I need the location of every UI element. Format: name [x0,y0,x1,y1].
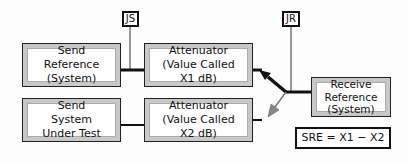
box-line: Attenuator [169,44,228,58]
box-line: (System) [327,103,374,116]
js-label-text: JS [126,13,135,24]
box-line: Under Test [42,127,100,141]
box-line: Attenuator [169,99,228,113]
box-line: (System) [47,72,97,86]
attenuator-x2-box: Attenuator (Value Called X2 dB) [144,98,253,142]
box-line: Reference [325,91,378,104]
box-line: (Value Called [162,58,234,72]
box-line: Send [58,44,86,58]
attenuator-x1-box: Attenuator (Value Called X1 dB) [144,43,253,87]
jr-label-text: JR [286,13,296,24]
sre-formula-text: SRE = X1 − X2 [301,131,384,144]
send-system-under-test-box: Send System Under Test [22,98,121,142]
receive-reference-box: Receive Reference (System) [311,77,391,117]
box-line: System [51,113,92,127]
jr-label: JR [282,11,300,27]
send-reference-box: Send Reference (System) [22,43,121,87]
box-line: X1 dB) [180,72,217,86]
box-line: X2 dB) [180,127,217,141]
box-line: Send [58,99,86,113]
box-line: (Value Called [162,113,234,127]
box-line: Receive [330,78,371,91]
box-line: Reference [44,58,99,72]
sre-formula-box: SRE = X1 − X2 [295,127,391,149]
js-label: JS [122,11,139,27]
